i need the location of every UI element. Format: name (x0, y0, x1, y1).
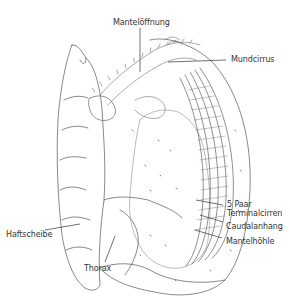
mantle-outline (100, 39, 250, 295)
label-mouth-cirrus: Mundcirrus (231, 55, 274, 64)
barnacle-anatomy-drawing (0, 0, 290, 302)
label-mantle-opening: Mantelöffnung (113, 18, 170, 27)
label-terminal-cirri-line1: 5 Paar (227, 200, 252, 209)
body-outline (89, 96, 211, 268)
surface-dots (132, 130, 241, 281)
label-thorax: Thorax (84, 264, 111, 273)
label-terminal-cirri-line2: Terminalcirren (227, 209, 282, 218)
label-attachment-disc: Haftscheibe (6, 230, 52, 239)
attachment-disc-outline (57, 45, 105, 290)
cirri-crosshatch (188, 86, 228, 230)
label-mantle-cavity: Mantelhöhle (226, 237, 274, 246)
mantle-opening-stipple (92, 37, 200, 119)
label-caudal-appendage: Caudalanhang (226, 222, 283, 231)
